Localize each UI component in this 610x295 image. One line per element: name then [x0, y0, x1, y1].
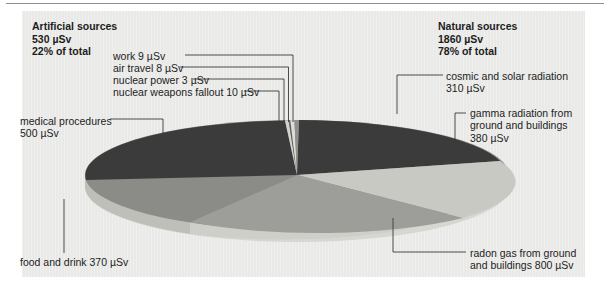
leader-radon [393, 218, 466, 252]
label-air-travel: air travel 8 µSv [113, 62, 183, 74]
label-nuclear-weapons-fallout: nuclear weapons fallout 10 µSv [113, 86, 259, 98]
label-nuclear-power: nuclear power 3 µSv [113, 74, 209, 86]
leader-cosmic [397, 75, 443, 114]
radiation-sources-figure: Artificial sources 530 µSv 22% of total … [0, 0, 610, 295]
label-cosmic-and-solar-radiation: cosmic and solar radiation 310 µSv [446, 70, 568, 95]
leader-medical [110, 119, 163, 139]
label-medical-procedures: medical procedures 500 µSv [20, 115, 112, 140]
label-food-and-drink: food and drink 370 µSv [20, 256, 128, 268]
label-work: work 9 µSv [113, 50, 165, 62]
label-radon-gas: radon gas from ground and buildings 800 … [470, 247, 576, 272]
label-gamma-radiation: gamma radiation from ground and building… [470, 107, 572, 144]
leader-gamma [455, 113, 466, 143]
heading-artificial-sources: Artificial sources 530 µSv 22% of total [32, 20, 117, 58]
heading-natural-sources: Natural sources 1860 µSv 78% of total [438, 20, 517, 58]
